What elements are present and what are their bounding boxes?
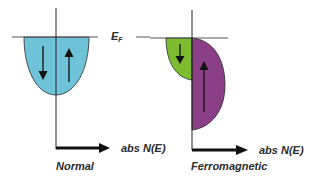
normal-axis-label: abs N(E) [121,142,166,154]
ferro-majority-band [192,38,225,130]
ferro-dos-axis-arrow-icon [192,145,248,155]
normal-panel: abs N(E) Normal [12,8,166,172]
normal-title: Normal [56,160,95,172]
svg-text:EF: EF [111,30,123,43]
fermi-level-label: EF [111,30,123,43]
ferro-title: Ferromagnetic [191,160,267,172]
ferromagnetic-panel: abs N(E) Ferromagnetic [150,10,304,172]
ferro-axis-label: abs N(E) [259,144,304,156]
density-of-states-diagram: abs N(E) Normal EF abs N(E) Ferromagneti… [0,0,313,183]
normal-dos-axis-arrow-icon [56,143,110,153]
